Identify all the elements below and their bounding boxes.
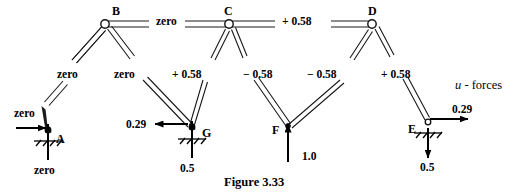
member-force-CD: + 0.58 (282, 16, 312, 28)
node-label-D: D (368, 5, 377, 17)
member-force-BG: zero (114, 69, 135, 81)
node-label-C: C (224, 5, 233, 17)
force-label-A-horizontal: zero (14, 108, 35, 120)
u-forces-text: - forces (461, 78, 502, 92)
node-label-A: A (56, 133, 65, 145)
joint-B (101, 20, 109, 28)
member-force-BC: zero (156, 16, 177, 28)
force-label-F-vertical: 1.0 (302, 151, 316, 163)
member-force-DF: − 0.58 (307, 69, 337, 81)
force-label-G-horizontal: 0.29 (126, 119, 146, 131)
figure-caption: Figure 3.33 (224, 175, 284, 190)
force-label-E-horizontal: 0.29 (452, 104, 472, 116)
member-force-BA: zero (57, 69, 78, 81)
truss-diagram (0, 0, 532, 194)
force-label-G-vertical: 0.5 (180, 163, 194, 175)
member-force-DE: + 0.58 (381, 69, 411, 81)
node-label-B: B (112, 5, 120, 17)
node-label-F: F (272, 124, 279, 136)
joint-C (225, 20, 233, 28)
node-label-E: E (408, 123, 416, 135)
force-arrows (16, 119, 468, 162)
member-force-CF: − 0.58 (243, 69, 273, 81)
supports (34, 132, 442, 146)
joint-E (425, 119, 431, 125)
joint-D (368, 20, 376, 28)
u-forces-annotation: u - forces (455, 78, 502, 93)
force-label-E-vertical: 0.5 (420, 162, 434, 174)
node-label-G: G (202, 127, 211, 139)
figure-container: B C D A G F E zero + 0.58 zero zero + 0.… (0, 0, 532, 194)
truss-joints (45, 20, 431, 133)
member-force-CG: + 0.58 (172, 69, 202, 81)
truss-members (42, 21, 430, 130)
force-label-A-vertical: zero (34, 165, 55, 177)
